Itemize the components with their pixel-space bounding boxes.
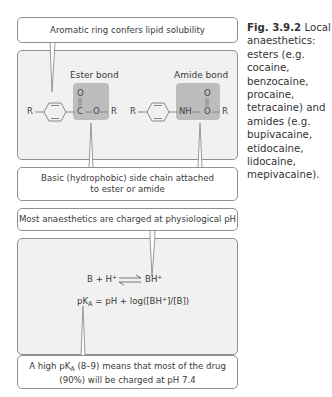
reaction-left: B + H+ (87, 273, 117, 284)
figure-caption: Fig. 3.9.2 Local anaesthetics: esters (e… (247, 21, 331, 182)
reaction-right-text: BH (145, 274, 157, 284)
pka-callout-line1-b: (8–9) means that most of the drug (75, 361, 226, 371)
pka-equation-end: ]/[B]) (167, 296, 189, 306)
figure-caption-text: Local anaesthetics: esters (e.g. cocaine… (247, 22, 331, 180)
reaction-right: BH+ (145, 273, 162, 284)
figure-caption-label: Fig. 3.9.2 (247, 22, 301, 33)
reaction-right-sup: + (157, 273, 162, 280)
pka-equation-rest: = pH + log([BH (93, 296, 162, 306)
pka-equation-p: pK (77, 296, 88, 306)
pka-callout: A high pKA (8–9) means that most of the … (17, 355, 238, 389)
pka-callout-line1: A high pKA (8–9) means that most of the … (18, 361, 237, 375)
pka-callout-line1-a: A high pK (29, 361, 70, 371)
reaction-left-text: B + H (87, 274, 112, 284)
reaction-left-sup: + (112, 273, 117, 280)
pka-callout-line2: (90%) will be charged at pH 7.4 (18, 375, 237, 386)
pka-equation: pKA = pH + log([BH+]/[B]) (77, 295, 189, 308)
